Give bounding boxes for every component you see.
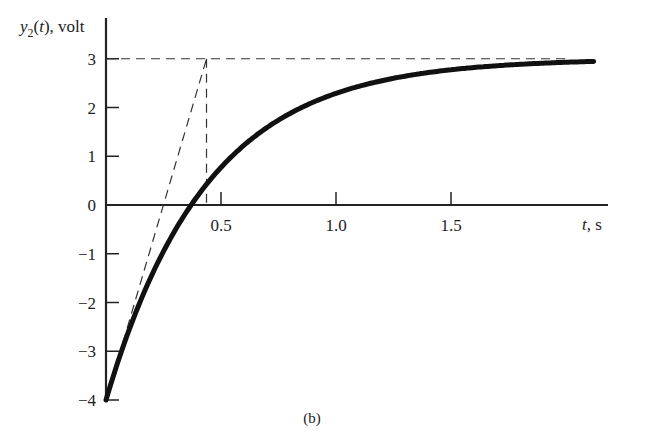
- y-ticks: −4−3−2−10123: [78, 50, 119, 410]
- y-tick-label: −2: [78, 294, 96, 313]
- x-axis-label: t, s: [582, 215, 602, 234]
- y-tick-label: 2: [88, 99, 97, 118]
- step-response-chart: −4−3−2−10123 0.51.01.5 y2(t), volt t, s …: [0, 0, 646, 441]
- y-tick-label: −4: [78, 391, 97, 410]
- y-tick-label: 1: [88, 147, 97, 166]
- y-tick-label: −1: [78, 245, 96, 264]
- y-tick-label: 3: [88, 50, 97, 69]
- x-tick-label: 1.5: [440, 216, 461, 235]
- subplot-label: (b): [303, 410, 321, 427]
- x-tick-label: 0.5: [210, 216, 231, 235]
- y-tick-label: −3: [78, 342, 96, 361]
- response-curve: [106, 61, 594, 400]
- y-axis-label: y2(t), volt: [18, 17, 85, 40]
- axes: [106, 18, 608, 402]
- x-tick-label: 1.0: [325, 216, 346, 235]
- x-ticks: 0.51.01.5: [210, 192, 461, 235]
- y-tick-label: 0: [88, 196, 97, 215]
